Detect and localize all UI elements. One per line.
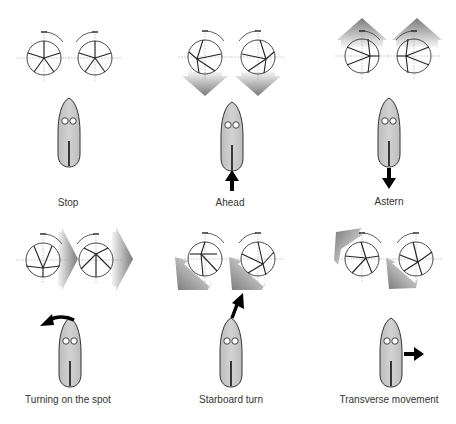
label-astern: Astern: [375, 196, 404, 207]
propeller-left: [17, 32, 71, 82]
boat: [220, 318, 242, 387]
panel-astern: [335, 18, 442, 189]
propulsion-diagram: [0, 0, 456, 424]
propeller-right: [231, 31, 285, 81]
thrust-arrow-right: [386, 258, 418, 289]
panel-starboard: [175, 233, 285, 387]
propeller-right: [68, 32, 122, 82]
propeller-left: [178, 31, 232, 81]
thrust-arrow-left: [58, 228, 78, 290]
motion-arrow-forward-right: [232, 293, 244, 318]
thrust-arrow-left: [175, 257, 212, 290]
motion-arrow-backward: [382, 168, 396, 189]
boat: [58, 98, 80, 167]
label-stop: Stop: [58, 197, 79, 208]
boat: [59, 318, 81, 387]
thrust-arrow-right: [392, 18, 442, 47]
label-turning-on-the-spot: Turning on the spot: [25, 394, 111, 405]
panel-turning: [16, 227, 133, 387]
label-ahead: Ahead: [216, 197, 245, 208]
thrust-arrow-right: [112, 227, 133, 291]
thrust-arrow-right: [229, 257, 266, 290]
label-starboard-turn: Starboard turn: [199, 394, 263, 405]
thrust-arrow-left: [334, 228, 362, 265]
boat: [378, 98, 400, 167]
motion-arrow-right: [404, 347, 424, 361]
label-transverse-movement: Transverse movement: [339, 394, 438, 405]
motion-arrow-forward: [225, 170, 239, 191]
panel-ahead: [178, 31, 285, 191]
panel-stop: [17, 32, 122, 167]
panel-transverse: [334, 228, 443, 387]
boat: [221, 102, 243, 171]
boat: [380, 318, 402, 387]
